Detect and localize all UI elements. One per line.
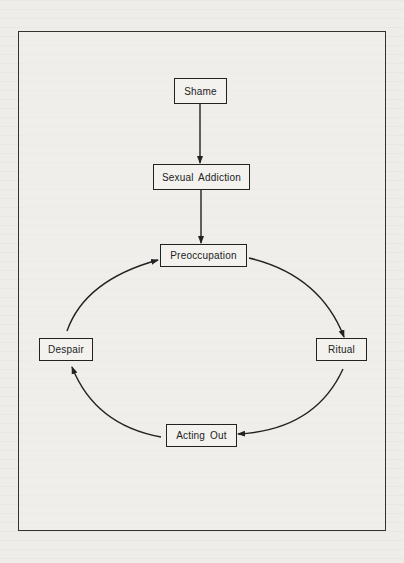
node-despair: Despair xyxy=(39,338,93,361)
node-label: Shame xyxy=(184,86,217,97)
node-sexual-addiction: Sexual Addiction xyxy=(153,164,250,190)
node-label: Despair xyxy=(48,344,84,355)
node-preoccupation: Preoccupation xyxy=(160,244,247,267)
arrow-ritual-to-acting-out xyxy=(238,369,343,434)
node-shame: Shame xyxy=(174,78,227,104)
node-label: Preoccupation xyxy=(170,250,237,261)
node-label: Acting Out xyxy=(176,430,227,441)
node-ritual: Ritual xyxy=(316,338,367,361)
node-acting-out: Acting Out xyxy=(166,424,237,447)
node-label: Sexual Addiction xyxy=(162,172,241,183)
node-label: Ritual xyxy=(328,344,355,355)
arrow-acting-out-to-despair xyxy=(72,367,161,437)
arrow-preoccupation-to-ritual xyxy=(249,258,344,337)
arrow-despair-to-preoccupation xyxy=(67,260,158,331)
